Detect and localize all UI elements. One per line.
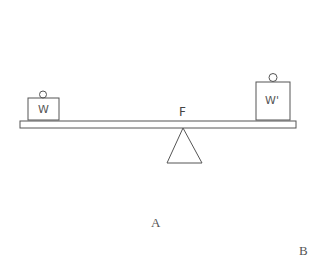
- lever-beam: [20, 121, 296, 128]
- label-a: A: [151, 216, 160, 229]
- weight-left-label: W: [38, 104, 49, 115]
- weight-left-ring: [40, 91, 47, 98]
- weight-right-label: W': [265, 95, 279, 106]
- label-b: B: [299, 244, 308, 257]
- fulcrum-triangle: [167, 128, 202, 163]
- fulcrum-label: F: [179, 106, 186, 118]
- weight-right-ring: [269, 74, 277, 82]
